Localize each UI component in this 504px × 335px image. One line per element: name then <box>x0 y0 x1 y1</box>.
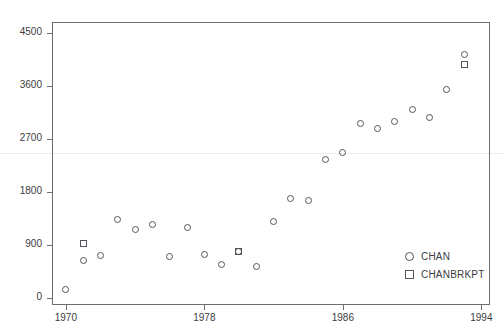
x-tick-label: 1994 <box>451 313 504 323</box>
legend: CHAN CHANBRKPT <box>405 247 484 283</box>
y-tick-mark <box>47 192 52 193</box>
x-tick-label: 1978 <box>174 313 234 323</box>
data-point-chanbrkpt <box>80 240 87 247</box>
y-tick-label: 900 <box>0 239 42 249</box>
data-point-chan <box>80 257 87 264</box>
y-tick-label: 2700 <box>0 133 42 143</box>
data-point-chan <box>184 224 191 231</box>
y-tick-mark <box>47 86 52 87</box>
data-point-chan <box>97 252 104 259</box>
data-point-chan <box>409 106 416 113</box>
x-tick-mark <box>481 305 482 310</box>
circle-marker-icon <box>405 252 421 261</box>
y-tick-mark <box>47 33 52 34</box>
y-tick-mark <box>47 139 52 140</box>
data-point-chan <box>305 197 312 204</box>
y-tick-label: 3600 <box>0 80 42 90</box>
x-tick-label: 1986 <box>313 313 373 323</box>
legend-item-chanbrkpt: CHANBRKPT <box>405 265 484 283</box>
data-point-chanbrkpt <box>235 248 242 255</box>
data-point-chan <box>132 226 139 233</box>
y-tick-label: 4500 <box>0 27 42 37</box>
legend-item-chan: CHAN <box>405 247 484 265</box>
scatter-plot-figure: 09001800270036004500 1970197819861994 CH… <box>0 0 504 335</box>
x-tick-mark <box>204 305 205 310</box>
x-tick-label: 1970 <box>36 313 96 323</box>
data-point-chan <box>270 218 277 225</box>
data-point-chan <box>201 251 208 258</box>
y-tick-mark <box>47 298 52 299</box>
y-tick-label: 1800 <box>0 186 42 196</box>
legend-label-chan: CHAN <box>421 251 450 262</box>
legend-label-chanbrkpt: CHANBRKPT <box>421 269 484 280</box>
x-tick-mark <box>343 305 344 310</box>
data-point-chan <box>253 263 260 270</box>
y-tick-mark <box>47 245 52 246</box>
data-point-chan <box>426 114 433 121</box>
data-point-chanbrkpt <box>461 61 468 68</box>
data-point-chan <box>461 51 468 58</box>
square-marker-icon <box>405 270 421 279</box>
y-tick-label: 0 <box>0 292 42 302</box>
data-point-chan <box>62 286 69 293</box>
x-tick-mark <box>66 305 67 310</box>
